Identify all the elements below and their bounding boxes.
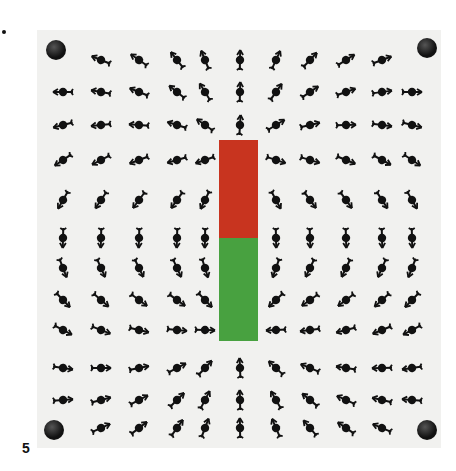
- compass-needle-icon: [90, 393, 111, 406]
- compass-needle-icon: [90, 52, 112, 67]
- compass-needle-icon: [90, 152, 112, 169]
- compass-needle-icon: [130, 189, 149, 210]
- compass-needle-icon: [236, 82, 245, 102]
- compass-needle-icon: [268, 417, 284, 439]
- figure-label: 5: [22, 440, 30, 456]
- compass-needle-icon: [168, 189, 186, 210]
- compass-needle-icon: [267, 389, 284, 411]
- compass-needle-icon: [335, 85, 357, 99]
- compass-needle-icon: [401, 118, 422, 131]
- magnet-north-pole: [219, 140, 258, 238]
- compass-needle-icon: [301, 189, 320, 210]
- compass-needle-icon: [59, 228, 68, 248]
- compass-needle-icon: [52, 322, 74, 339]
- compass-needle-icon: [300, 50, 320, 70]
- compass-needle-icon: [300, 324, 321, 335]
- compass-needle-icon: [90, 86, 111, 98]
- compass-needle-icon: [172, 228, 181, 248]
- compass-needle-icon: [128, 291, 149, 310]
- compass-needle-icon: [337, 189, 356, 210]
- compass-needle-icon: [371, 420, 393, 436]
- compass-needle-icon: [197, 389, 214, 411]
- compass-needle-icon: [195, 325, 215, 334]
- compass-needle-icon: [371, 394, 392, 407]
- compass-needle-icon: [235, 358, 244, 378]
- compass-needle-icon: [129, 419, 150, 438]
- compass-needle-icon: [236, 418, 245, 438]
- compass-needle-icon: [404, 257, 419, 279]
- compass-needle-icon: [52, 362, 73, 373]
- compass-needle-icon: [128, 392, 150, 409]
- compass-needle-icon: [235, 115, 245, 135]
- compass-needle-icon: [128, 324, 149, 337]
- compass-needle-icon: [168, 50, 187, 71]
- compass-needle-icon: [167, 325, 188, 335]
- compass-needle-icon: [266, 358, 286, 378]
- compass-needle-icon: [195, 358, 215, 378]
- compass-needle-icon: [401, 322, 423, 339]
- compass-needle-icon: [54, 189, 71, 211]
- compass-needle-icon: [194, 116, 215, 134]
- compass-needle-icon: [335, 323, 356, 336]
- compass-needle-icon: [90, 323, 112, 338]
- compass-needle-icon: [402, 88, 422, 96]
- compass-needle-icon: [52, 118, 73, 131]
- compass-needle-icon: [197, 49, 212, 71]
- compass-needle-icon: [166, 360, 188, 377]
- compass-needle-icon: [268, 189, 285, 211]
- compass-needle-icon: [402, 395, 423, 405]
- compass-needle-icon: [401, 151, 422, 169]
- compass-needle-icon: [336, 121, 356, 130]
- compass-needle-icon: [91, 364, 111, 373]
- compass-needle-icon: [96, 228, 105, 248]
- compass-needle-icon: [371, 322, 393, 337]
- compass-needle-icon: [166, 118, 188, 132]
- compass-needle-icon: [338, 257, 354, 279]
- compass-needle-icon: [236, 390, 245, 410]
- compass-needle-icon: [335, 152, 357, 167]
- compass-needle-icon: [372, 119, 393, 130]
- compass-needle-icon: [372, 364, 392, 373]
- compass-needle-icon: [53, 290, 73, 310]
- compass-needle-icon: [371, 152, 393, 169]
- compass-needle-icon: [53, 395, 74, 405]
- compass-needle-icon: [372, 290, 392, 310]
- compass-needle-icon: [335, 51, 356, 69]
- compass-needle-icon: [131, 257, 147, 279]
- compass-needle-icon: [299, 291, 320, 309]
- magnet-south-pole: [219, 238, 258, 341]
- compass-needle-icon: [269, 257, 283, 279]
- corner-peg-icon: [417, 38, 437, 58]
- compass-needle-icon: [267, 81, 285, 102]
- compass-needle-icon: [372, 86, 393, 97]
- corner-peg-icon: [44, 420, 64, 440]
- compass-needle-icon: [166, 153, 188, 167]
- compass-needle-icon: [335, 362, 356, 373]
- compass-needle-icon: [93, 257, 109, 279]
- compass-needle-icon: [371, 53, 393, 68]
- compass-needle-icon: [373, 189, 391, 210]
- compass-needle-icon: [408, 228, 417, 248]
- compass-needle-icon: [92, 189, 110, 210]
- compass-needle-icon: [198, 417, 213, 439]
- compass-needle-icon: [167, 82, 188, 101]
- compass-needle-icon: [91, 120, 112, 131]
- compass-needle-icon: [403, 189, 420, 211]
- compass-needle-icon: [402, 290, 422, 310]
- compass-needle-icon: [299, 153, 321, 167]
- compass-needle-icon: [300, 418, 319, 439]
- compass-needle-icon: [128, 84, 150, 99]
- compass-needle-icon: [169, 257, 185, 279]
- compass-needle-icon: [236, 50, 245, 70]
- compass-needle-icon: [266, 325, 286, 334]
- compass-needle-icon: [167, 390, 187, 410]
- corner-peg-icon: [417, 420, 437, 440]
- compass-needle-icon: [196, 81, 214, 102]
- compass-needle-icon: [55, 257, 70, 279]
- compass-needle-icon: [378, 228, 387, 248]
- compass-needle-icon: [268, 49, 284, 71]
- compass-needle-icon: [335, 291, 356, 310]
- compass-needle-icon: [194, 153, 216, 167]
- compass-needle-icon: [335, 419, 356, 437]
- compass-needle-icon: [201, 228, 210, 248]
